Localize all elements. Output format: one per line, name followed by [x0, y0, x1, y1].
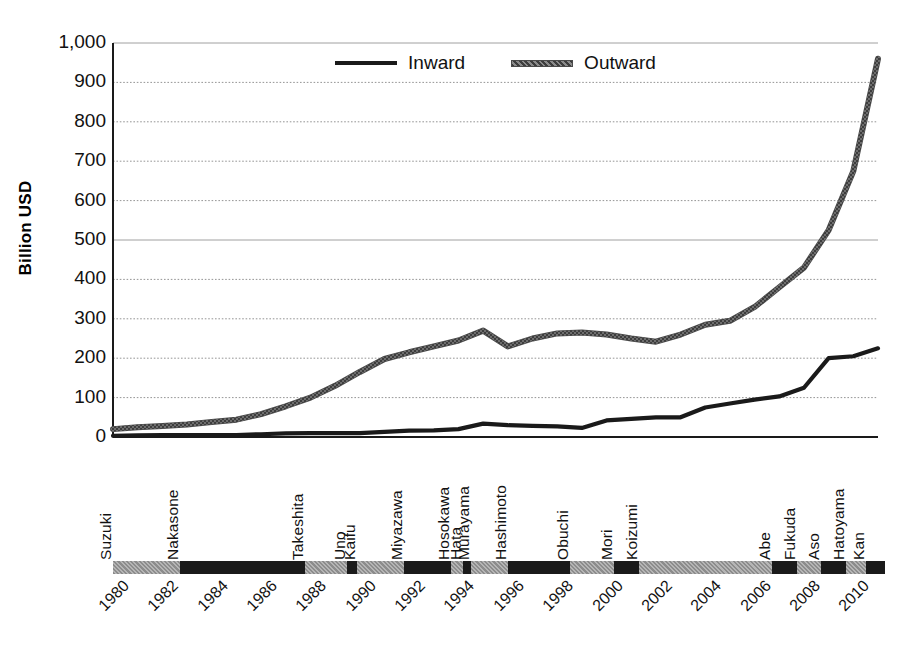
pm-label: Koizumi [623, 504, 641, 560]
legend-item-inward: Inward [335, 52, 465, 74]
pm-label: Mori [598, 529, 616, 560]
year-tick-label: 2000 [589, 577, 627, 615]
legend-label: Inward [408, 52, 465, 74]
pm-label: Kaifu [341, 524, 359, 560]
gridlines [113, 43, 878, 398]
legend-swatch-inward [335, 61, 397, 66]
series-line-outward [113, 59, 878, 429]
year-tick-label: 2006 [737, 577, 775, 615]
pm-label: Nakasone [164, 489, 182, 560]
year-tick-label: 1998 [539, 577, 577, 615]
pm-tenure-segment [113, 561, 180, 574]
pm-label: Hatoyama [830, 489, 848, 560]
pm-label: Kan [850, 532, 868, 560]
year-tick-label: 1996 [490, 577, 528, 615]
pm-label: Abe [756, 532, 774, 560]
pm-tenure-segment [180, 561, 306, 574]
year-tick-label: 1984 [194, 577, 232, 615]
pm-tenure-segment [866, 561, 886, 574]
pm-tenure-segment [357, 561, 404, 574]
pm-label: Fukuda [781, 508, 799, 560]
pm-tenure-segment [463, 561, 470, 574]
legend-item-outward: Outward [511, 52, 656, 74]
chart-container: Billion USD 0100200300400500600700800900… [0, 0, 904, 652]
pm-label: Aso [805, 533, 823, 560]
pm-tenure-segment [846, 561, 866, 574]
pm-tenure-segment [570, 561, 614, 574]
pm-label: Hashimoto [492, 485, 510, 560]
pm-label: Murayama [455, 486, 473, 560]
year-tick-label: 1988 [292, 577, 330, 615]
pm-tenure-segment [471, 561, 508, 574]
year-tick-label: 1994 [440, 577, 478, 615]
year-tick-label: 1986 [243, 577, 281, 615]
year-tick-label: 2010 [835, 577, 873, 615]
pm-tenure-segment [451, 561, 463, 574]
chart-legend: InwardOutward [113, 48, 878, 78]
pm-tenure-segment [404, 561, 451, 574]
year-tick-label: 2008 [786, 577, 824, 615]
pm-name-labels: SuzukiNakasoneTakeshitaUnoKaifuMiyazawaH… [113, 472, 878, 560]
pm-label: Miyazawa [388, 490, 406, 560]
pm-tenure-segment [305, 561, 347, 574]
pm-tenure-segment [508, 561, 570, 574]
pm-tenure-bar [113, 561, 878, 574]
year-tick-label: 1982 [144, 577, 182, 615]
year-tick-label: 2004 [687, 577, 725, 615]
pm-label: Takeshita [289, 494, 307, 560]
pm-tenure-segment [797, 561, 822, 574]
legend-label: Outward [584, 52, 656, 74]
pm-tenure-segment [772, 561, 797, 574]
year-tick-label: 2002 [638, 577, 676, 615]
pm-tenure-segment [821, 561, 846, 574]
year-tick-label: 1980 [95, 577, 133, 615]
x-axis-year-labels: 1980198219841986198819901992199419961998… [0, 580, 904, 652]
series-line-texture-outward [113, 59, 878, 429]
pm-label: Suzuki [97, 513, 115, 560]
pm-label: Obuchi [554, 510, 572, 560]
year-tick-label: 1990 [342, 577, 380, 615]
year-tick-label: 1992 [391, 577, 429, 615]
pm-tenure-segment [614, 561, 639, 574]
pm-tenure-segment [347, 561, 357, 574]
pm-tenure-segment [639, 561, 772, 574]
legend-swatch-outward [511, 60, 573, 67]
